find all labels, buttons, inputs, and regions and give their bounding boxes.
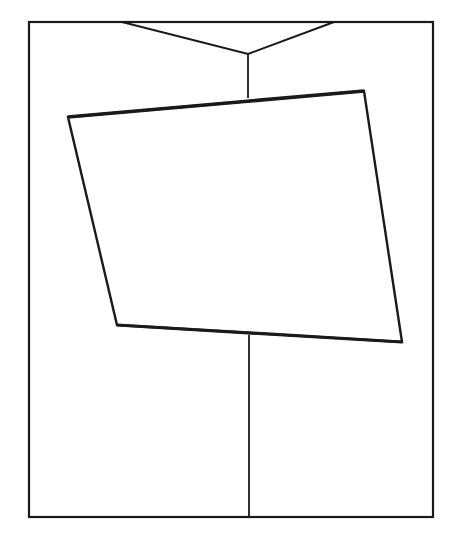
tilted-panel bbox=[68, 91, 402, 342]
hanger-v bbox=[122, 22, 334, 54]
diagram-canvas bbox=[0, 0, 456, 542]
